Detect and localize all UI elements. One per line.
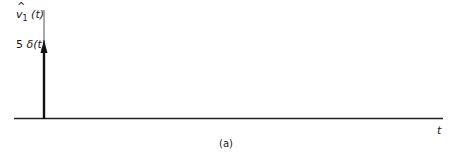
- figure-caption: (a): [219, 138, 233, 149]
- hat-mark: ^: [17, 1, 25, 12]
- y-axis-label: ^ v1 (t): [16, 8, 44, 23]
- impulse-plot: [0, 0, 456, 155]
- impulse-label: 5 δ(t): [16, 38, 46, 51]
- x-axis-label: t: [437, 124, 441, 137]
